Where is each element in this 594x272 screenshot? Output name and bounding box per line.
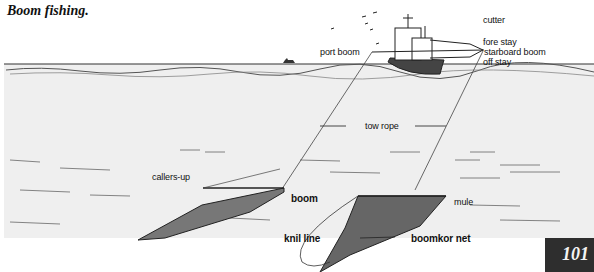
label-knil-line: knil line — [284, 233, 320, 244]
page-number: 101 — [562, 244, 589, 265]
distant-boat — [283, 58, 295, 63]
label-mule: mule — [454, 197, 473, 207]
label-tow-rope: tow rope — [365, 121, 399, 131]
label-starboard-boom: starboard boom — [484, 47, 546, 57]
label-boom: boom — [291, 193, 318, 204]
label-boomkor-net: boomkor net — [411, 233, 470, 244]
label-fore-stay: fore stay — [483, 37, 517, 47]
sea-area — [4, 64, 594, 238]
label-port-boom: port boom — [320, 47, 360, 57]
birds — [331, 12, 379, 44]
page-number-badge: 101 — [545, 238, 594, 272]
label-cutter: cutter — [483, 15, 505, 25]
label-off-stay: off stay — [483, 57, 511, 67]
label-callers-up: callers-up — [152, 172, 190, 182]
